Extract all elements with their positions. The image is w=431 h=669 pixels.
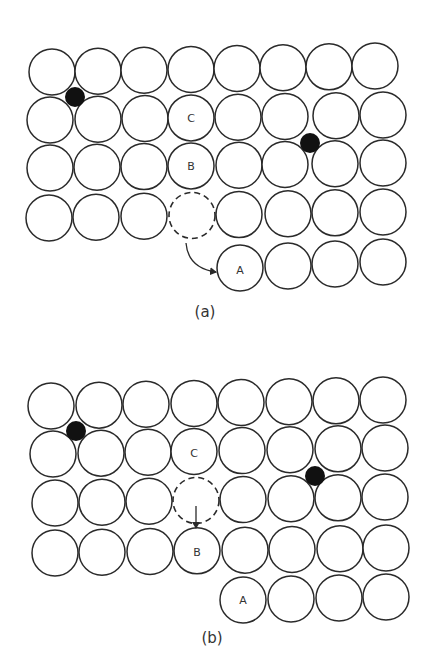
atom <box>122 96 168 142</box>
atom <box>360 92 406 138</box>
atom <box>219 428 265 474</box>
atom <box>268 476 314 522</box>
atom-label-a: A <box>236 264 244 277</box>
atom <box>266 379 312 425</box>
atom <box>312 190 358 236</box>
interstitial-atom <box>66 421 86 441</box>
atom <box>216 142 262 188</box>
atom <box>312 141 358 187</box>
atom <box>26 195 72 241</box>
atom <box>216 192 262 238</box>
atom <box>76 382 122 428</box>
atom <box>222 527 268 573</box>
atom <box>360 189 406 235</box>
vacancy-site <box>169 192 215 238</box>
atom <box>218 380 264 426</box>
atom <box>262 93 308 139</box>
atom <box>127 529 173 575</box>
atom <box>121 47 167 93</box>
atom <box>268 576 314 622</box>
interstitial-atom <box>65 87 85 107</box>
atom <box>313 93 359 139</box>
atom <box>28 383 74 429</box>
atom <box>220 477 266 523</box>
atom <box>74 144 120 190</box>
interstitial-atom <box>300 133 320 153</box>
atom <box>269 526 315 572</box>
atom <box>267 427 313 473</box>
atom <box>29 49 75 95</box>
jump-arrow <box>186 243 216 272</box>
lattice-diagram: CBA(a) CBA(b) <box>0 0 431 669</box>
panel-a: CBA(a) <box>26 43 406 321</box>
atom <box>306 44 352 90</box>
atom <box>215 94 261 140</box>
atom <box>260 45 306 91</box>
atom <box>75 48 121 94</box>
atom <box>73 194 119 240</box>
atom-label-b: B <box>193 546 201 559</box>
atom <box>317 526 363 572</box>
atom <box>125 429 171 475</box>
atom <box>32 480 78 526</box>
panel-b: CBA(b) <box>28 377 409 647</box>
atom <box>27 97 73 143</box>
atom <box>214 46 260 92</box>
atom <box>265 243 311 289</box>
interstitial-atom <box>305 466 325 486</box>
atom-label-b: B <box>187 160 195 173</box>
atom <box>123 381 169 427</box>
atom-label-c: C <box>190 447 198 460</box>
atom <box>313 378 359 424</box>
atom <box>78 430 124 476</box>
atom <box>363 574 409 620</box>
atom <box>362 425 408 471</box>
atom <box>360 140 406 186</box>
atom <box>168 46 214 92</box>
atom <box>315 426 361 472</box>
atom <box>362 474 408 520</box>
atom <box>316 575 362 621</box>
atom <box>79 479 125 525</box>
atom-label-a: A <box>239 594 247 607</box>
atom <box>352 43 398 89</box>
atom <box>363 525 409 571</box>
atom <box>121 144 167 190</box>
atom <box>171 380 217 426</box>
atom <box>79 529 125 575</box>
atom <box>360 377 406 423</box>
atom <box>312 241 358 287</box>
panel-caption: (a) <box>195 303 216 321</box>
atom <box>27 145 73 191</box>
atom <box>121 193 167 239</box>
atom <box>262 141 308 187</box>
panel-caption: (b) <box>201 629 222 647</box>
atom <box>126 478 172 524</box>
atom <box>32 530 78 576</box>
atom-label-c: C <box>187 112 195 125</box>
atom <box>360 239 406 285</box>
atom <box>265 191 311 237</box>
